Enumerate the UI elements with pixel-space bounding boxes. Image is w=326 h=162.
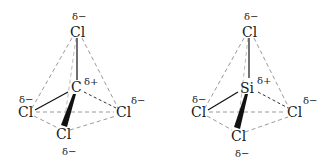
charge-bottom: δ−: [62, 146, 76, 157]
charge-center: δ+: [257, 75, 271, 86]
edge-left-bottom: [34, 116, 58, 128]
edge-top-left: [32, 38, 72, 108]
atom-left: Cl: [191, 104, 207, 120]
edge-bottom-right: [245, 117, 288, 132]
atom-center: C: [71, 79, 82, 95]
atom-center: Si: [240, 80, 255, 96]
atom-right: Cl: [287, 104, 303, 120]
edge-top-right: [82, 38, 118, 108]
charge-bottom: δ−: [235, 148, 249, 159]
atom-top: Cl: [70, 24, 86, 40]
charge-top: δ−: [72, 11, 86, 22]
diagram-svg: δ− Cl C δ+ δ− Cl Cl δ− Cl δ− δ− Cl Si δ+…: [0, 0, 326, 162]
molecule-sicl4: δ− Cl Si δ+ δ− Cl Cl δ− Cl δ−: [191, 11, 317, 159]
bond-bottom-wedge: [61, 94, 76, 127]
edge-top-right: [254, 38, 289, 108]
bond-right-dashed: [258, 92, 288, 108]
edge-bottom-right: [70, 116, 116, 130]
charge-right: δ−: [131, 95, 145, 106]
atom-top: Cl: [242, 24, 258, 40]
atom-bottom: Cl: [231, 128, 247, 144]
edge-left-bottom: [207, 116, 232, 130]
charge-right: δ−: [303, 95, 317, 106]
atom-bottom: Cl: [56, 126, 72, 142]
edge-top-left: [205, 38, 244, 108]
charge-center: δ+: [84, 76, 98, 87]
atom-left: Cl: [18, 104, 34, 120]
charge-top: δ−: [244, 11, 258, 22]
molecule-ccl4: δ− Cl C δ+ δ− Cl Cl δ− Cl δ−: [18, 11, 145, 157]
atom-right: Cl: [116, 104, 132, 120]
tetrahedral-molecules-diagram: δ− Cl C δ+ δ− Cl Cl δ− Cl δ− δ− Cl Si δ+…: [0, 0, 326, 162]
